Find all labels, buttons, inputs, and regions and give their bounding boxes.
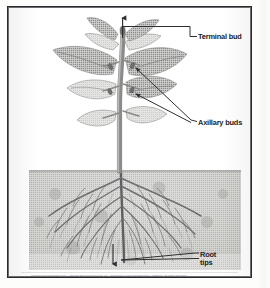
label-axillary-buds: Axillary buds: [198, 119, 242, 127]
stem: [118, 32, 123, 171]
plant-diagram-illustration: [9, 8, 250, 276]
scan-edge-shadow: [256, 0, 270, 288]
label-root-tips-line2: tips: [200, 259, 216, 267]
diagram-stage: Terminal bud Axillary buds Root tips Rep…: [9, 8, 250, 276]
copyright-credit: Reproduced with Permission. Copyright Pe…: [31, 275, 216, 276]
label-terminal-bud: Terminal bud: [198, 33, 242, 41]
label-root-tips: Root tips: [200, 251, 216, 267]
figure-container: Terminal bud Axillary buds Root tips Rep…: [0, 0, 270, 288]
